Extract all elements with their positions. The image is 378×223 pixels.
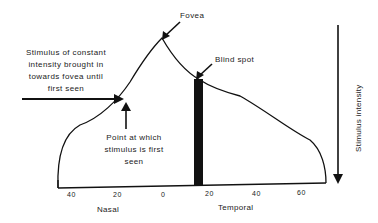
tick-temporal-40: 40 xyxy=(252,190,261,197)
point-description: Point at which stimulus is first seen xyxy=(98,132,170,168)
blind-spot-bar xyxy=(194,79,203,186)
stimulus-line-1: Stimulus of constant xyxy=(16,47,116,59)
tick-temporal-20: 20 xyxy=(205,190,214,197)
point-arrowhead xyxy=(121,102,131,111)
stimulus-intensity-arrowhead xyxy=(333,174,343,184)
point-line-3: seen xyxy=(98,156,170,168)
stimulus-line-4: first seen xyxy=(16,83,116,95)
tick-nasal-20: 20 xyxy=(113,191,122,198)
x-axis-baseline xyxy=(58,183,326,188)
tick-zero: 0 xyxy=(161,191,165,198)
fovea-arrow xyxy=(165,22,180,36)
diagram-canvas xyxy=(0,0,378,223)
fovea-label: Fovea xyxy=(180,10,204,22)
stimulus-intensity-label: Stimulus intensity xyxy=(354,84,363,152)
point-line-2: stimulus is first xyxy=(98,144,170,156)
blind-spot-label: Blind spot xyxy=(215,54,254,66)
nasal-label: Nasal xyxy=(97,205,119,214)
stimulus-line-2: intensity brought in xyxy=(16,59,116,71)
tick-temporal-60: 60 xyxy=(297,189,306,196)
stimulus-description: Stimulus of constant intensity brought i… xyxy=(16,47,116,95)
temporal-label: Temporal xyxy=(218,203,253,212)
point-line-1: Point at which xyxy=(98,132,170,144)
tick-nasal-40: 40 xyxy=(67,191,76,198)
stimulus-line-3: towards fovea until xyxy=(16,71,116,83)
